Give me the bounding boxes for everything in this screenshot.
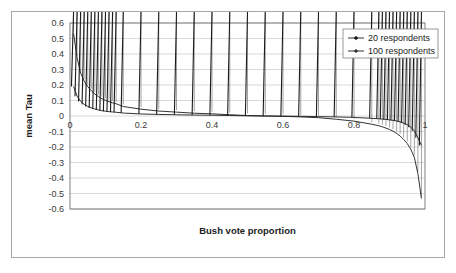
x-axis-tick-label: 1 [422, 120, 427, 130]
data-point-marker [103, 12, 105, 111]
legend-label: 100 respondents [368, 46, 436, 56]
data-point-marker [111, 12, 113, 112]
data-point-marker [93, 12, 95, 109]
data-point-marker [387, 12, 389, 120]
y-axis-tick-label: -0.4 [48, 173, 64, 183]
data-point-marker [121, 12, 123, 113]
x-axis-tick-label: 0 [67, 120, 72, 130]
y-axis-tick-label: 0 [59, 111, 64, 121]
data-point-marker [370, 12, 372, 118]
data-point-marker [380, 12, 382, 119]
chart-frame: 0.60.50.40.30.20.10-0.1-0.2-0.3-0.4-0.5-… [11, 11, 445, 258]
data-point-marker [114, 12, 116, 112]
data-point-marker [174, 12, 176, 115]
y-axis-tick-label: 0.5 [51, 34, 64, 44]
data-point-marker [210, 12, 212, 115]
y-axis-tick-label: 0.4 [51, 49, 64, 59]
data-point-marker [107, 12, 109, 112]
legend-label: 20 respondents [368, 33, 431, 43]
y-axis-tick-label: 0.6 [51, 18, 64, 28]
data-point-marker [139, 12, 141, 114]
data-point-marker [352, 12, 354, 117]
y-axis-tick-label: -0.1 [48, 127, 64, 137]
data-point-marker [79, 12, 81, 101]
y-axis-tick-label: 0.1 [51, 96, 64, 106]
y-axis-tick-label: -0.6 [48, 204, 64, 214]
chart-plot: 0.60.50.40.30.20.10-0.1-0.2-0.3-0.4-0.5-… [12, 12, 446, 259]
data-point-marker [192, 12, 194, 115]
data-point-marker [395, 12, 397, 121]
x-axis-title: Bush vote proportion [199, 225, 296, 236]
data-point-marker [377, 12, 379, 119]
y-axis-tick-label: 0.2 [51, 80, 64, 90]
y-axis-tick-label: 0.3 [51, 65, 64, 75]
y-axis-tick-label: -0.3 [48, 158, 64, 168]
y-axis-tick-label: -0.2 [48, 142, 64, 152]
data-point-marker [334, 12, 336, 117]
x-axis-tick-label: 0.4 [206, 120, 219, 130]
y-axis-tick-label: -0.5 [48, 189, 64, 199]
data-point-marker [157, 12, 159, 114]
data-point-marker [100, 12, 102, 111]
data-point-marker [96, 12, 98, 110]
data-point-marker [391, 12, 393, 120]
data-point-marker [89, 12, 91, 108]
data-point-marker [82, 12, 84, 104]
data-point-marker [86, 12, 88, 106]
data-point-marker [398, 12, 400, 122]
y-axis-title: mean Tau [23, 94, 34, 138]
legend[interactable]: 20 respondents100 respondents [343, 29, 438, 58]
x-axis-tick-label: 0.2 [135, 120, 148, 130]
x-axis-tick-label: 0.6 [277, 120, 290, 130]
data-point-marker [384, 12, 386, 119]
